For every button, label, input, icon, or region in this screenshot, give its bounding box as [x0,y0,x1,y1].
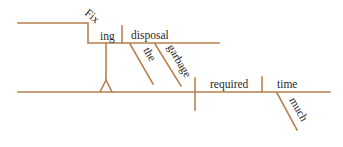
stilt-fork [100,80,112,92]
word-disposal: disposal [131,29,169,42]
gerund-step-line [18,23,219,43]
word-garbage: garbage [164,42,193,80]
sentence-diagram: Fix ing disposal the garbage required ti… [0,0,343,147]
word-required: required [210,78,249,91]
word-the: the [141,45,158,63]
word-ing: ing [100,30,115,43]
word-time: time [277,78,297,90]
